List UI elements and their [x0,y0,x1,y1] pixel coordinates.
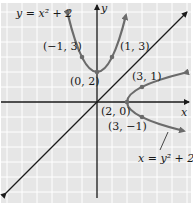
point-2-0 [125,100,130,105]
point-1-3 [110,55,115,60]
label-point-3-1: (3, 1) [132,70,162,83]
curve2-label: x = y² + 2 [138,152,193,165]
point-neg1-3 [80,55,85,60]
label-point-2-0: (2, 0) [101,105,131,118]
point-0-2 [95,70,100,75]
label-point-0-2: (0, 2) [70,75,100,88]
point-3-1 [140,85,145,90]
curve1-label: y = x² + 2 [15,7,72,20]
label-point-3-neg1: (3, −1) [108,120,147,133]
label-point-1-3: (1, 3) [120,40,150,53]
chart: x y y = x² + 2 x = y² + 2 (−1, 3) (1, 3)… [0,0,193,206]
point-3-neg1 [140,115,145,120]
y-axis-label: y [100,2,108,15]
chart-canvas: x y y = x² + 2 x = y² + 2 (−1, 3) (1, 3)… [0,0,193,206]
x-axis-label: x [181,106,188,119]
label-point-neg1-3: (−1, 3) [43,40,82,53]
